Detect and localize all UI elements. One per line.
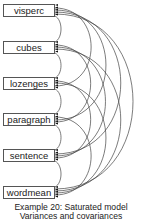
covariance-arc [55, 12, 121, 154]
arrowhead-icon [55, 46, 58, 48]
variable-box-wordmean: wordmean [3, 186, 55, 199]
variable-box-visperc: visperc [3, 4, 55, 17]
arrowhead-icon [55, 196, 58, 198]
arrowhead-icon [55, 4, 58, 6]
variable-box-paragraph: paragraph [3, 113, 55, 126]
arrowhead-icon [55, 151, 58, 153]
arrowhead-icon [55, 9, 58, 11]
variable-box-lozenges: lozenges [3, 77, 55, 90]
arrowhead-icon [55, 51, 58, 53]
arrowhead-icon [55, 87, 58, 89]
arrowhead-icon [55, 82, 58, 84]
covariance-arc [55, 161, 61, 187]
arrowhead-icon [55, 123, 58, 125]
covariance-arc [55, 53, 61, 78]
covariance-arc [55, 16, 61, 42]
arrowhead-icon [55, 159, 58, 161]
covariance-arc [55, 47, 105, 156]
covariance-arc [55, 125, 61, 150]
arrowhead-icon [55, 48, 58, 50]
covariance-arc [55, 49, 121, 191]
arrowhead-icon [55, 118, 58, 120]
covariance-arc [55, 89, 61, 114]
caption-subtitle: Variances and covariances [0, 212, 142, 221]
arrowhead-icon [55, 11, 58, 13]
variable-box-sentence: sentence [3, 149, 55, 162]
variable-box-cubes: cubes [3, 41, 55, 54]
